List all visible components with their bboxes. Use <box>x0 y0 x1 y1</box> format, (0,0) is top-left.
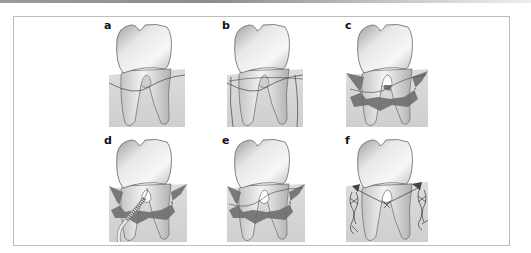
panel-label: b <box>222 20 230 32</box>
panel-label: f <box>345 135 350 147</box>
tooth-illustration-b <box>223 23 307 129</box>
figure-frame: a b c <box>13 16 510 246</box>
panel-f: f <box>346 138 430 244</box>
top-rule <box>0 0 531 3</box>
panel-label: c <box>345 20 352 32</box>
panel-label: a <box>104 20 111 32</box>
panel-b: b <box>223 23 307 129</box>
panel-label: d <box>104 135 112 147</box>
tooth-illustration-d <box>105 138 189 244</box>
tooth-illustration-a <box>105 23 189 129</box>
panel-d: d <box>105 138 189 244</box>
tooth-illustration-f <box>346 138 430 244</box>
panel-a: a <box>105 23 189 129</box>
panel-label: e <box>222 135 229 147</box>
tooth-illustration-e <box>223 138 307 244</box>
tooth-illustration-c <box>346 23 430 129</box>
panel-c: c <box>346 23 430 129</box>
panel-e: e <box>223 138 307 244</box>
